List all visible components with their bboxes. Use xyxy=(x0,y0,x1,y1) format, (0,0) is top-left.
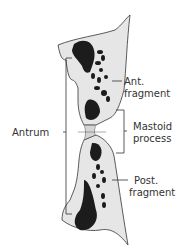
mastoid-label-2: process xyxy=(133,133,171,144)
antrum-label: Antrum xyxy=(12,127,49,138)
ant-fragment-label-1: Ant. xyxy=(124,76,144,87)
post-fragment-label-1: Post. xyxy=(134,175,158,186)
mastoid-fragments-diagram: Ant. fragment Antrum Mastoid process Pos… xyxy=(0,0,186,249)
ant-fragment-label-2: fragment xyxy=(124,88,170,99)
antrum-bracket xyxy=(63,58,72,214)
mastoid-bracket xyxy=(116,110,127,153)
post-fragment-label-2: fragment xyxy=(129,187,175,198)
mastoid-label-1: Mastoid xyxy=(133,121,172,132)
